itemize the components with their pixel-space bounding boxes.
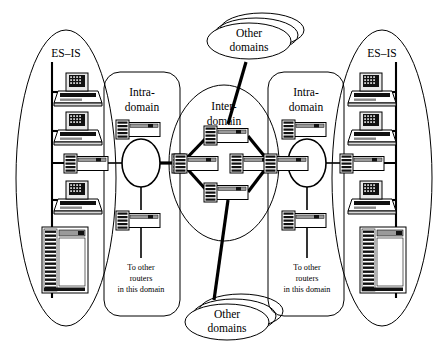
other-domains-bottom-label-line2: domains (208, 322, 247, 334)
workstation-right-1 (348, 73, 396, 106)
network-diagram-svg: Other domains Other domains ES–IS ES–IS … (0, 0, 448, 360)
to-other-routers-left-line2: routers (130, 274, 153, 283)
other-domains-bottom-label-line1: Other (214, 308, 240, 320)
router-intra-left-south (116, 211, 160, 230)
intra-domain-left-label-line2: domain (125, 101, 160, 113)
other-domains-top-label-line2: domains (230, 41, 269, 53)
other-domains-top-label-line1: Other (236, 27, 262, 39)
intra-domain-right-label-line2: domain (289, 101, 324, 113)
intra-domain-left-cloud (122, 139, 160, 187)
intra-domain-right-label-line1: Intra- (293, 86, 319, 98)
to-other-routers-left-line3: in this domain (118, 285, 165, 294)
es-is-right-label: ES–IS (367, 47, 396, 59)
inter-domain-label-line1: Inter- (211, 100, 236, 112)
workstation-right-2 (348, 112, 396, 145)
router-intra-right-east (340, 154, 384, 173)
to-other-routers-right-line2: routers (296, 274, 319, 283)
to-other-routers-right-line1: To other (293, 263, 321, 272)
workstation-left-2 (54, 112, 102, 145)
diagram-canvas: Other domains Other domains ES–IS ES–IS … (0, 0, 448, 360)
router-inter-domain-west (174, 154, 218, 173)
router-inter-domain-east (264, 154, 308, 173)
router-inter-domain-north (204, 126, 248, 145)
other-domains-top-group: Other domains (207, 13, 304, 59)
workstation-right-3 (348, 181, 396, 214)
workstation-left-1 (54, 73, 102, 106)
router-intra-right-north (282, 120, 326, 139)
router-intra-left-north (116, 120, 160, 139)
to-other-routers-left-line1: To other (127, 263, 155, 272)
link-other-domains-bottom (214, 200, 228, 300)
to-other-routers-right-line3: in this domain (284, 285, 331, 294)
server-left (42, 227, 88, 293)
router-intra-left-west (64, 154, 108, 173)
router-intra-right-south (282, 211, 326, 230)
inter-domain-label-line2: domain (207, 115, 242, 127)
server-right (360, 227, 406, 293)
router-inter-domain-south (204, 183, 248, 202)
intra-domain-left-label-line1: Intra- (129, 86, 155, 98)
workstation-left-3 (54, 181, 102, 214)
es-is-left-label: ES–IS (51, 47, 80, 59)
